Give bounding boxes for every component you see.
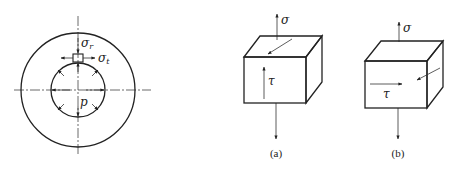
front-face	[365, 61, 427, 108]
stress-element-b: σ τ (b)	[365, 21, 443, 160]
top-face	[365, 41, 443, 61]
normal-stress-label: σ	[403, 21, 412, 35]
shear-stress-label: τ	[383, 87, 390, 101]
pressure-label: p	[80, 95, 88, 109]
top-face	[244, 36, 322, 57]
shear-arrow-top	[268, 39, 292, 54]
caption-a: (a)	[270, 147, 283, 160]
shear-arrow-right	[417, 68, 440, 80]
normal-stress-label: σ	[281, 13, 290, 27]
radial-stress-label: σr	[81, 36, 94, 51]
right-face	[306, 36, 322, 103]
caption-b: (b)	[392, 147, 405, 160]
right-face	[427, 41, 443, 108]
stress-element-a: σ τ (a)	[244, 13, 322, 160]
diagram-canvas: σr σt p σ τ (a) σ	[0, 0, 461, 177]
shear-stress-label: τ	[268, 74, 275, 88]
cylinder-figure: σr σt p	[14, 16, 151, 156]
tangential-stress-label: σt	[98, 51, 110, 66]
front-face	[244, 57, 306, 103]
